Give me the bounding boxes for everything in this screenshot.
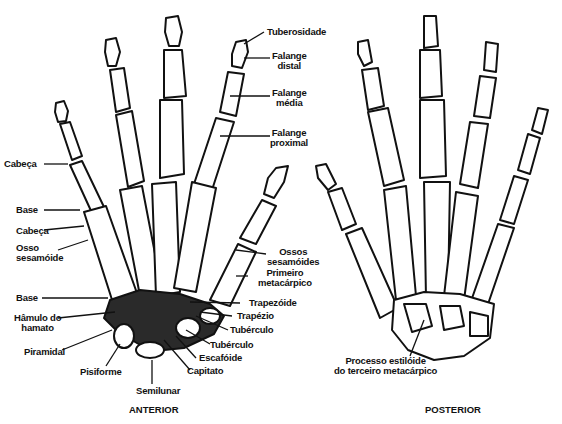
label-primeiro-metacarpico: Primeiro metacárpico — [258, 268, 312, 288]
label-ossos-sesamoides: Ossos sesamóides — [267, 247, 319, 267]
caption-posterior: POSTERIOR — [425, 404, 481, 415]
label-line: sesamóide — [16, 253, 63, 263]
posterior-hand — [316, 16, 548, 360]
label-line: hamato — [14, 323, 61, 333]
label-falange-proximal: Falange proximal — [270, 128, 308, 148]
label-line: do terceiro metacárpico — [334, 366, 437, 376]
label-line: metacárpico — [258, 278, 312, 288]
label-semilunar: Semilunar — [136, 386, 180, 396]
label-base-2: Base — [16, 293, 38, 303]
label-line: sesamóides — [267, 257, 319, 267]
label-tuberculo-1: Tubérculo — [230, 325, 273, 335]
label-trapezio: Trapézio — [237, 311, 274, 321]
label-cabeca-1: Cabeça — [4, 159, 37, 169]
label-falange-distal: Falange distal — [272, 51, 307, 71]
label-escafoide: Escafóide — [199, 353, 242, 363]
label-cabeca-2: Cabeça — [16, 226, 49, 236]
label-pisiforme: Pisiforme — [80, 367, 122, 377]
label-line: média — [272, 98, 307, 108]
label-base-1: Base — [16, 205, 38, 215]
label-piramidal: Piramidal — [24, 347, 65, 357]
label-osso-sesamoide: Osso sesamóide — [16, 243, 63, 263]
label-falange-media: Falange média — [272, 88, 307, 108]
label-capitato: Capitato — [187, 366, 223, 376]
label-trapezoide: Trapezóide — [249, 298, 297, 308]
label-tuberculo-2: Tubérculo — [210, 340, 253, 350]
label-tuberosidade: Tuberosidade — [267, 27, 326, 37]
label-line: proximal — [270, 138, 308, 148]
label-line: distal — [272, 61, 307, 71]
label-hamulo-do-hamato: Hâmulo do hamato — [14, 313, 61, 333]
caption-anterior: ANTERIOR — [129, 404, 179, 415]
label-processo-estiloide: Processo estilóide do terceiro metacárpi… — [334, 356, 437, 376]
hand-bones-figure: Tuberosidade Falange distal Falange médi… — [0, 0, 562, 424]
